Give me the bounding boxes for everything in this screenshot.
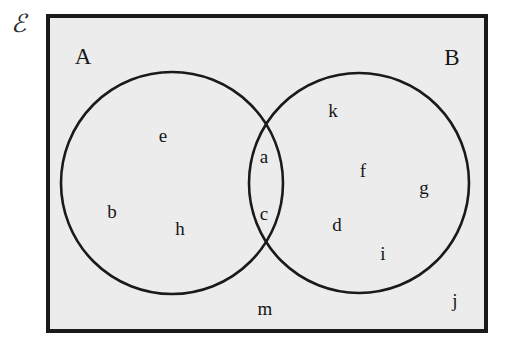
universal-set-symbol: ℰ xyxy=(11,11,26,36)
element-label-a: a xyxy=(260,147,268,166)
element-label-c: c xyxy=(260,204,268,223)
universal-set-rectangle xyxy=(48,16,486,331)
venn-diagram-page: ℰ A B ebhackfgdimj xyxy=(0,0,516,346)
element-label-h: h xyxy=(175,219,185,238)
element-label-f: f xyxy=(360,161,366,180)
set-label-a: A xyxy=(75,45,92,68)
element-label-j: j xyxy=(452,291,457,310)
element-label-g: g xyxy=(419,178,429,197)
element-label-b: b xyxy=(107,202,117,221)
element-label-i: i xyxy=(380,244,385,263)
element-label-m: m xyxy=(258,299,273,318)
set-label-b: B xyxy=(444,46,459,69)
element-label-d: d xyxy=(332,215,342,234)
element-label-e: e xyxy=(159,126,167,145)
element-label-k: k xyxy=(328,101,338,120)
